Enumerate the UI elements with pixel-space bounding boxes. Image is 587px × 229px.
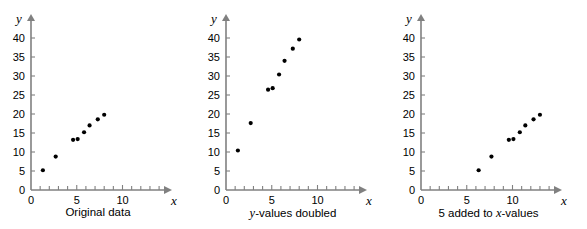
data-point (291, 47, 295, 51)
x-tick-label: 0 (28, 194, 34, 206)
y-tick-label: 0 (409, 184, 415, 196)
y-tick-label: 15 (13, 127, 25, 139)
x-tick-label: 5 (74, 194, 80, 206)
y-axis-label: y (14, 11, 22, 26)
scatter-panel-original: 05101520253035400510yx (0, 0, 196, 229)
y-tick-label: 40 (208, 32, 220, 44)
data-point (523, 123, 527, 127)
caption-text-post: -values (502, 207, 539, 219)
y-tick-label: 10 (13, 146, 25, 158)
y-tick-label: 30 (403, 70, 415, 82)
data-point (518, 130, 522, 134)
data-point (82, 130, 86, 134)
data-point (266, 88, 270, 92)
scatter-plot-1: 05101520253035400510yx (195, 0, 391, 229)
scatter-plot-0: 05101520253035400510yx (0, 0, 196, 229)
caption-text-pre: 5 added to (438, 207, 496, 219)
data-point (236, 148, 240, 152)
data-point (489, 154, 493, 158)
y-tick-label: 40 (13, 32, 25, 44)
data-point (277, 72, 281, 76)
y-tick-label: 5 (214, 165, 220, 177)
scatter-plot-2: 05101520253035400510yx (390, 0, 586, 229)
y-tick-label: 30 (13, 70, 25, 82)
y-tick-label: 0 (19, 184, 25, 196)
data-point (76, 137, 80, 141)
y-tick-label: 5 (409, 165, 415, 177)
x-tick-label: 0 (418, 194, 424, 206)
panel-caption-x-shifted: 5 added to x-values (390, 206, 587, 221)
y-tick-label: 20 (13, 108, 25, 120)
y-axis-label: y (404, 11, 412, 26)
y-tick-label: 10 (403, 146, 415, 158)
scatter-panel-x-shifted: 05101520253035400510yx (390, 0, 586, 229)
y-tick-label: 25 (403, 89, 415, 101)
data-point (249, 121, 253, 125)
y-tick-label: 35 (208, 51, 220, 63)
data-point (71, 138, 75, 142)
y-tick-label: 15 (208, 127, 220, 139)
data-point (531, 117, 535, 121)
data-point (96, 117, 100, 121)
data-point (538, 113, 542, 117)
caption-text-y-doubled: -values doubled (255, 207, 336, 219)
scatter-panel-y-doubled: 05101520253035400510yx (195, 0, 391, 229)
data-point (102, 113, 106, 117)
y-tick-label: 25 (13, 89, 25, 101)
data-point (54, 154, 58, 158)
data-point (87, 123, 91, 127)
y-tick-label: 0 (214, 184, 220, 196)
caption-text-original: Original data (65, 206, 130, 218)
y-tick-label: 5 (19, 165, 25, 177)
y-axis-label: y (209, 11, 217, 26)
figure-container: 05101520253035400510yx 05101520253035400… (0, 0, 587, 229)
x-tick-label: 5 (464, 194, 470, 206)
panel-caption-y-doubled: y-values doubled (195, 206, 391, 221)
x-tick-label: 10 (506, 194, 518, 206)
y-tick-label: 20 (208, 108, 220, 120)
y-tick-label: 25 (208, 89, 220, 101)
y-tick-label: 10 (208, 146, 220, 158)
x-tick-label: 10 (116, 194, 128, 206)
y-tick-label: 15 (403, 127, 415, 139)
data-point (477, 168, 481, 172)
x-tick-label: 0 (223, 194, 229, 206)
x-tick-label: 10 (311, 194, 323, 206)
y-tick-label: 30 (208, 70, 220, 82)
y-tick-label: 35 (13, 51, 25, 63)
data-point (507, 138, 511, 142)
data-point (511, 137, 515, 141)
data-point (41, 168, 45, 172)
y-axis-arrow-icon (222, 14, 230, 21)
panel-caption-original: Original data (0, 206, 196, 218)
y-tick-label: 40 (403, 32, 415, 44)
data-point (271, 86, 275, 90)
x-tick-label: 5 (269, 194, 275, 206)
y-axis-arrow-icon (417, 14, 425, 21)
y-tick-label: 20 (403, 108, 415, 120)
data-point (282, 59, 286, 63)
y-tick-label: 35 (403, 51, 415, 63)
data-point (297, 37, 301, 41)
y-axis-arrow-icon (27, 14, 35, 21)
